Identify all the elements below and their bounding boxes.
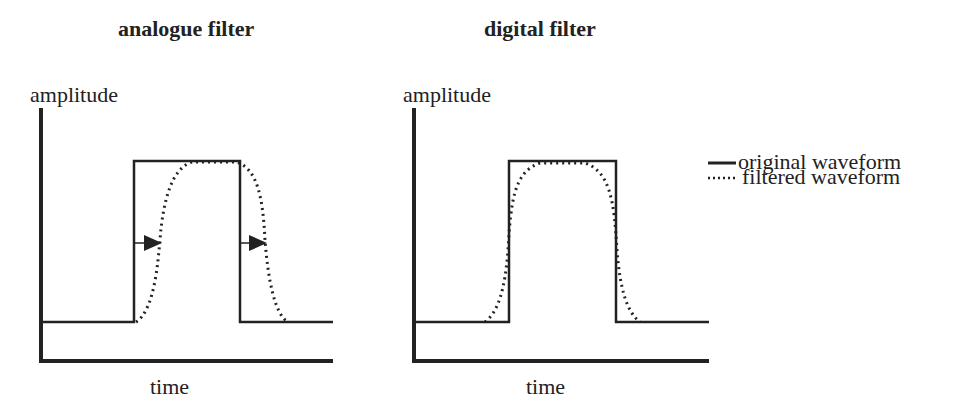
axes-analogue bbox=[39, 108, 333, 362]
legend-label-filtered: filtered waveform bbox=[742, 164, 900, 190]
arrowhead-fall-icon bbox=[249, 235, 267, 251]
waveform-diagram bbox=[0, 0, 968, 420]
axes-digital bbox=[412, 108, 709, 362]
legend-item-filtered: filtered waveform bbox=[742, 164, 900, 190]
original-waveform-analogue bbox=[42, 161, 333, 322]
original-waveform-digital bbox=[415, 161, 709, 322]
